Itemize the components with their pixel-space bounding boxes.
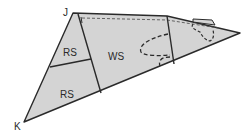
region-rs-upper-label: RS: [63, 47, 77, 58]
vertex-k-label: K: [14, 121, 21, 132]
triangle-diagram: J K RS RS WS: [0, 0, 248, 136]
vertex-j-label: J: [63, 7, 68, 18]
region-rs-lower-label: RS: [60, 89, 74, 100]
region-ws-label: WS: [108, 51, 124, 62]
main-triangle: [24, 13, 240, 122]
